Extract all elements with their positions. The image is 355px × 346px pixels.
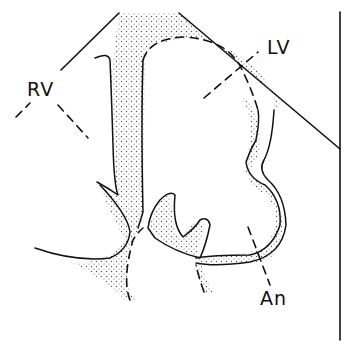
label-rv: RV — [27, 78, 54, 100]
rv-leader-right — [58, 105, 88, 138]
lv-inner-wall — [196, 110, 280, 258]
heart-drawing — [0, 0, 355, 346]
lv-endocardium-dashed — [143, 37, 258, 110]
rv-leader-left — [16, 103, 30, 117]
label-an: An — [260, 287, 287, 309]
lv-leader — [204, 52, 258, 98]
label-lv: LV — [267, 36, 291, 58]
heart-diagram: RV LV An — [0, 0, 355, 346]
